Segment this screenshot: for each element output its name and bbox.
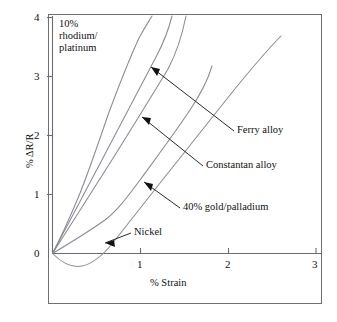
x-tick-label-1: 1 <box>137 258 143 271</box>
figure-frame <box>49 15 322 304</box>
series-label-ferry-alloy: Ferry alloy <box>237 124 283 136</box>
series-label-gold-palladium: 40% gold/palladium <box>183 201 268 213</box>
series-label-constantan-alloy: Constantan alloy <box>206 159 277 171</box>
y-tick-label-1: 1 <box>34 188 40 201</box>
strain-gauge-response-chart <box>0 0 337 322</box>
y-axis-title: % ΔR/R <box>24 134 36 168</box>
x-tick-label-3: 3 <box>312 258 318 271</box>
x-axis-title: % Strain <box>150 277 186 289</box>
y-tick-label-3: 3 <box>34 70 40 83</box>
x-tick-label-2: 2 <box>225 258 231 271</box>
series-label-nickel: Nickel <box>134 226 162 238</box>
y-tick-label-4: 4 <box>34 11 40 24</box>
figure-container: 4 3 2 1 0 1 2 3 % ΔR/R % Strain 10% rhod… <box>0 0 337 322</box>
y-tick-label-0: 0 <box>34 247 40 260</box>
series-label-rhodium-platinum: 10% rhodium/ platinum <box>59 18 98 54</box>
